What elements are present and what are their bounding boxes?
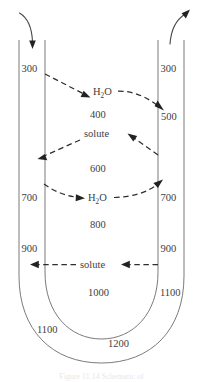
osmolality-1200-bottom: 1200 [108, 338, 129, 349]
osmolality-700-left: 700 [22, 192, 38, 203]
descending-limb-inflow-arrow [20, 13, 36, 49]
osmolality-500-ascending: 500 [161, 111, 177, 122]
osmolality-900-right: 900 [161, 243, 177, 254]
solute-transport-lower-right [121, 261, 158, 268]
osmolality-900-left: 900 [22, 243, 38, 254]
solute-transport-upper-right [128, 133, 159, 155]
osmolality-800-interstitium: 800 [90, 219, 106, 230]
ascending-limb-outflow-arrow [170, 10, 190, 45]
osmolality-600-interstitium: 600 [90, 163, 106, 174]
water-label-upper: H2O [93, 86, 112, 100]
solute-label-upper: solute [84, 128, 109, 139]
solute-transport-upper-left [38, 140, 81, 160]
water-transport-lower-left [44, 184, 85, 201]
water-transport-upper-left [45, 74, 91, 97]
solute-label-lower: solute [80, 259, 105, 270]
osmolality-1100-ascending: 1100 [160, 287, 181, 298]
osmolality-300-left: 300 [22, 63, 38, 74]
osmolality-1000-interstitium: 1000 [88, 287, 109, 298]
osmolality-1100-outer: 1100 [37, 324, 58, 335]
solute-transport-lower-left [30, 261, 76, 268]
water-transport-upper-right [118, 91, 164, 111]
water-label-lower: H2O [88, 192, 107, 206]
osmolality-300-right: 300 [161, 63, 177, 74]
figure-caption: Figure 11.14 Schematic of [0, 371, 203, 382]
osmolality-700-right: 700 [161, 192, 177, 203]
water-transport-lower-right [114, 180, 163, 198]
osmolality-400-interstitium: 400 [90, 109, 106, 120]
loop-of-henle-diagram: 300 300 H2O 400 500 solute 600 700 700 H… [0, 0, 203, 382]
